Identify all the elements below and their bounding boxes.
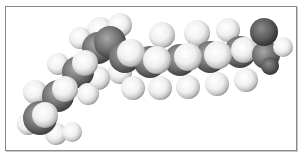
hydrogen-atom [149, 22, 175, 48]
hydrogen-atom [205, 72, 229, 96]
oxygen-atom [250, 18, 278, 46]
hydrogen-atom [148, 76, 172, 100]
oxygen-atom [261, 57, 279, 75]
hydrogen-atom [32, 102, 58, 128]
hydrogen-atom [234, 68, 258, 92]
molecule-model [0, 0, 301, 156]
hydrogen-atom [62, 122, 82, 142]
hydrogen-atom [143, 46, 171, 74]
hydrogen-atom [77, 83, 99, 105]
hydrogen-atom [52, 76, 78, 102]
hydrogen-atom [72, 50, 98, 76]
hydrogen-atom [174, 43, 202, 71]
hydrogen-atom [121, 76, 145, 100]
hydrogen-atom [176, 75, 200, 99]
hydrogen-atom [117, 39, 145, 67]
hydrogen-atom [273, 37, 293, 57]
hydrogen-atom [204, 41, 232, 69]
atom-group [17, 13, 293, 145]
